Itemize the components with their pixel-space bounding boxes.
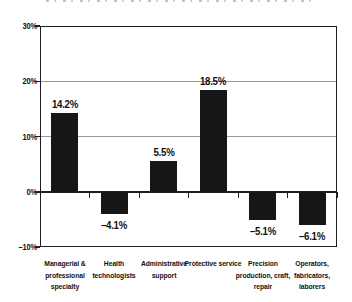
category-label-line: laborers	[280, 281, 345, 293]
bar-2	[101, 192, 128, 215]
y-axis-label-10: 10%	[7, 132, 37, 142]
category-label-line: Operators,	[280, 258, 345, 270]
clipped-caption-remnant	[46, 0, 312, 2]
bar-5	[249, 192, 276, 220]
bar-value-label-4: 18.5%	[187, 75, 240, 87]
bar-value-label-6: –6.1%	[286, 230, 339, 242]
bar-3	[150, 161, 177, 191]
bar-value-label-1: 14.2%	[38, 98, 91, 110]
bar-1	[51, 113, 78, 191]
y-axis-label-0: 0%	[7, 187, 37, 197]
zero-axis-line	[40, 191, 337, 193]
y-axis-label-20: 20%	[7, 76, 37, 86]
category-label-6: Operators,fabricators,laborers	[280, 258, 345, 293]
bar-chart-figure: 14.2%–4.1%5.5%18.5%–5.1%–6.1%30%20%10%0%…	[0, 0, 352, 302]
category-label-line: fabricators,	[280, 270, 345, 282]
category-label-line: support	[131, 270, 196, 282]
bar-value-label-3: 5.5%	[137, 146, 190, 158]
category-label-line: specialty	[32, 281, 97, 293]
bar-6	[299, 192, 326, 226]
y-axis-label--10: –10%	[7, 242, 37, 252]
plot-area-border	[40, 26, 337, 247]
y-axis-label-30: 30%	[7, 21, 37, 31]
bar-4	[200, 90, 227, 192]
bar-value-label-2: –4.1%	[88, 219, 141, 231]
bar-value-label-5: –5.1%	[236, 225, 289, 237]
